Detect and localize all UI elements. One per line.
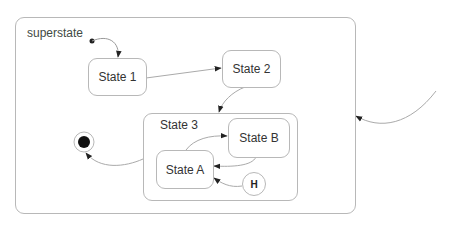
state-b[interactable]: State B xyxy=(228,118,290,158)
superstate-label: superstate xyxy=(27,26,83,40)
state-2[interactable]: State 2 xyxy=(222,50,281,88)
state-a-label: State A xyxy=(157,151,213,188)
state-1-label: State 1 xyxy=(89,59,146,95)
history-label: H xyxy=(250,179,257,190)
transition-external-to-superstate xyxy=(356,91,436,123)
history-pseudostate[interactable]: H xyxy=(242,172,266,196)
state-3-label: State 3 xyxy=(160,118,198,132)
state-2-label: State 2 xyxy=(223,51,280,87)
state-b-label: State B xyxy=(229,119,289,157)
state-1[interactable]: State 1 xyxy=(88,58,147,96)
state-a[interactable]: State A xyxy=(156,150,214,189)
